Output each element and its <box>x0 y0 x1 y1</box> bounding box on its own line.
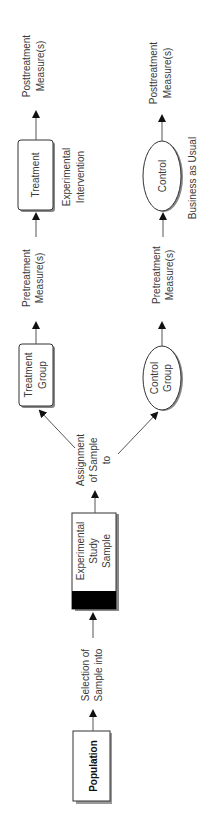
arrow-to-treatment-group <box>40 411 75 448</box>
svg-text:Pretreatment: Pretreatment <box>151 246 162 304</box>
svg-text:Treatment: Treatment <box>30 152 41 197</box>
population-label: Population <box>88 740 99 792</box>
svg-text:Intervention: Intervention <box>75 151 86 203</box>
svg-text:Sample: Sample <box>101 534 112 568</box>
posttreatment-label-control: Posttreatment Measure(s) <box>148 42 173 104</box>
svg-text:Assignment: Assignment <box>75 434 86 486</box>
svg-text:Measure(s): Measure(s) <box>162 48 173 99</box>
svg-text:Pretreatment: Pretreatment <box>21 249 32 307</box>
svg-text:Business as Usual: Business as Usual <box>187 137 198 219</box>
treatment-node: Treatment <box>18 140 55 212</box>
pretreatment-label-treatment: Pretreatment Measure(s) <box>21 249 45 307</box>
svg-text:Control: Control <box>149 362 160 394</box>
svg-text:Posttreatment: Posttreatment <box>148 42 159 104</box>
svg-text:Measure(s): Measure(s) <box>164 250 175 301</box>
assignment-label: Assignment of Sample to <box>75 434 112 486</box>
svg-text:Measure(s): Measure(s) <box>34 253 45 304</box>
sample-node: Experimental Study Sample <box>72 513 119 611</box>
svg-text:to: to <box>101 455 112 464</box>
svg-text:Group: Group <box>162 364 173 392</box>
control-group-node: Control Group <box>143 346 183 411</box>
arrow-to-control-group <box>118 413 157 454</box>
svg-text:Control: Control <box>157 160 168 192</box>
svg-text:Treatment: Treatment <box>23 352 34 397</box>
svg-text:Sample into: Sample into <box>93 648 104 701</box>
experimental-intervention-annotation: Experimental Intervention <box>61 148 86 206</box>
svg-text:Group: Group <box>37 361 48 389</box>
selection-label: Selection of Sample into <box>80 648 104 701</box>
svg-text:Study: Study <box>88 538 99 564</box>
svg-text:Posttreatment: Posttreatment <box>21 35 32 97</box>
svg-text:Experimental: Experimental <box>75 522 86 580</box>
svg-text:Selection of: Selection of <box>80 649 91 701</box>
svg-text:Experimental: Experimental <box>61 148 72 206</box>
treatment-group-node: Treatment Group <box>19 344 55 408</box>
svg-text:Measure(s): Measure(s) <box>35 41 46 92</box>
control-node: Control <box>143 141 183 212</box>
business-as-usual-annotation: Business as Usual <box>187 137 198 219</box>
svg-text:of Sample: of Sample <box>88 437 99 482</box>
experimental-design-diagram: Population Selection of Sample into Expe… <box>0 0 209 828</box>
population-node: Population <box>73 731 112 804</box>
pretreatment-label-control: Pretreatment Measure(s) <box>151 246 175 304</box>
posttreatment-label-treatment: Posttreatment Measure(s) <box>21 35 46 97</box>
